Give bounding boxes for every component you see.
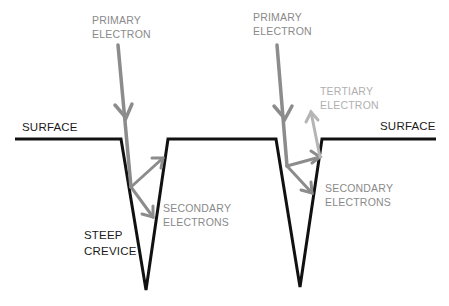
label-line: ELECTRONS bbox=[163, 215, 231, 229]
tertiary-electron-arrow bbox=[306, 112, 320, 157]
primary-electron-label-right: PRIMARY ELECTRON bbox=[253, 10, 312, 38]
secondary-electrons-label-right: SECONDARY ELECTRONS bbox=[325, 181, 393, 209]
primary-electron-arrow-left bbox=[115, 45, 132, 187]
label-line: ELECTRON bbox=[320, 98, 379, 112]
label-line: PRIMARY bbox=[253, 10, 312, 24]
primary-electron-label-left: PRIMARY ELECTRON bbox=[92, 13, 151, 41]
label-line: ELECTRON bbox=[253, 24, 312, 38]
secondary-electrons-label-left: SECONDARY ELECTRONS bbox=[163, 201, 231, 229]
steep-crevice-label: STEEP CREVICE bbox=[84, 227, 137, 259]
label-line: TERTIARY bbox=[320, 84, 379, 98]
label-line: ELECTRON bbox=[92, 27, 151, 41]
surface-label-right: SURFACE bbox=[380, 119, 436, 133]
surface-label-left: SURFACE bbox=[22, 120, 78, 134]
diagram-canvas bbox=[0, 0, 449, 306]
tertiary-electron-label: TERTIARY ELECTRON bbox=[320, 84, 379, 112]
label-line: CREVICE bbox=[84, 243, 137, 259]
label-line: ELECTRONS bbox=[325, 195, 393, 209]
label-line: SECONDARY bbox=[325, 181, 393, 195]
label-line: PRIMARY bbox=[92, 13, 151, 27]
label-line: STEEP bbox=[84, 227, 137, 243]
label-line: SECONDARY bbox=[163, 201, 231, 215]
